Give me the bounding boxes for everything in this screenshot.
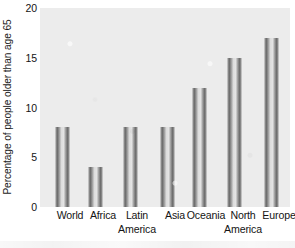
y-tick-label: 0 xyxy=(14,202,37,213)
bar-asia xyxy=(160,127,175,207)
bar-europe xyxy=(264,38,279,207)
y-tick-label: 5 xyxy=(14,152,37,163)
bar-north-america xyxy=(227,58,242,207)
bar-africa xyxy=(88,167,103,207)
bar-latin-america xyxy=(123,127,138,207)
x-tick-label-line2: America xyxy=(107,223,167,237)
x-axis-tick-labels: World Africa Latin America Asia Oceania … xyxy=(40,209,290,248)
bar-chart-figure: Percentage of people older than age 65 2… xyxy=(0,0,295,248)
y-tick-label: 15 xyxy=(14,52,37,63)
y-tick-label: 10 xyxy=(14,102,37,113)
x-tick-label-europe: Europe xyxy=(247,209,295,223)
plot-area xyxy=(40,8,290,207)
bar-world xyxy=(55,127,70,207)
x-tick-label-line2: America xyxy=(212,223,274,237)
x-tick-label-line1: Europe xyxy=(262,209,295,221)
y-axis-tick-labels: 20 15 10 5 0 xyxy=(14,0,37,248)
bar-oceania xyxy=(192,88,207,207)
y-axis-title: Percentage of people older than age 65 xyxy=(1,2,15,212)
y-tick-label: 20 xyxy=(14,3,37,14)
